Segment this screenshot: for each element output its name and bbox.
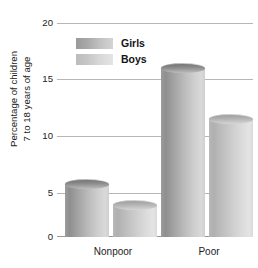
y-tick-label-15: 15: [31, 74, 53, 84]
bar-nonpoor-boys: [113, 205, 157, 237]
bar-poor-boys: [209, 119, 253, 237]
y-tick-label-0: 0: [31, 232, 53, 242]
gridline-20: [57, 23, 253, 24]
legend-item-boys: Boys: [76, 54, 147, 65]
legend-item-girls: Girls: [76, 38, 147, 49]
bar-nonpoor-girls: [65, 184, 109, 238]
bar-cap-inner: [113, 201, 157, 210]
legend-label-boys: Boys: [121, 54, 147, 65]
y-axis-title-line-2: 7 to 18 years of age: [20, 57, 33, 142]
bar-poor-girls: [161, 68, 205, 237]
y-tick-label-10: 10: [31, 131, 53, 141]
legend-label-girls: Girls: [121, 38, 145, 49]
legend-swatch-boys: [76, 54, 113, 65]
y-tick-label-5: 5: [31, 188, 53, 198]
legend-swatch-girls: [76, 38, 113, 49]
bar-cap-inner: [209, 115, 253, 124]
y-tick-label-20: 20: [31, 18, 53, 28]
x-category-label-nonpoor: Nonpoor: [65, 246, 161, 258]
bar-chart: Percentage of children 7 to 18 years of …: [0, 0, 258, 268]
bar-cap-inner: [65, 180, 109, 189]
chart-legend: Girls Boys: [76, 38, 147, 65]
y-axis-title-line-1: Percentage of children: [7, 51, 20, 147]
bar-cap-inner: [161, 64, 205, 73]
gridline-15: [57, 79, 253, 80]
x-category-label-poor: Poor: [161, 246, 257, 258]
y-axis-title: Percentage of children 7 to 18 years of …: [5, 33, 35, 165]
